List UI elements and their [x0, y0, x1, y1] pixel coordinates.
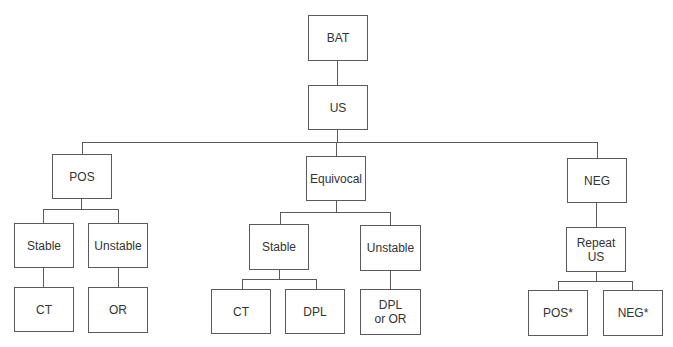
node-eq-dpl-or: DPL or OR — [360, 289, 421, 335]
node-pos-ct: CT — [14, 287, 74, 332]
connector-to-pos-stable — [43, 209, 44, 223]
node-neg: NEG — [567, 158, 627, 203]
node-label: CT — [36, 303, 52, 317]
connector-repeat-branch — [558, 281, 633, 282]
connector-eq-stable-down — [279, 270, 280, 279]
node-label: US — [330, 101, 347, 115]
node-label: DPL — [303, 305, 326, 319]
connector-to-pos — [82, 142, 83, 154]
node-pos-stable: Stable — [14, 223, 74, 268]
connector-to-eq-unstable — [390, 212, 391, 225]
node-eq-ct: CT — [211, 289, 271, 334]
node-label: POS* — [543, 306, 573, 320]
node-label: Stable — [262, 240, 296, 254]
node-label: POS — [69, 170, 94, 184]
connector-to-eq-dpl — [316, 279, 317, 289]
connector-to-repeat-neg — [632, 281, 633, 290]
connector-repeat-down — [596, 272, 597, 281]
node-eq-stable: Stable — [249, 224, 309, 270]
node-label: NEG* — [618, 306, 649, 320]
node-label: Stable — [27, 239, 61, 253]
node-repeat-us: Repeat US — [566, 227, 626, 272]
node-pos-unstable: Unstable — [88, 223, 148, 268]
connector-pos-stable-ct — [43, 268, 44, 287]
connector-pos-branch — [43, 209, 119, 210]
flowchart: BAT US POS Equivocal NEG Stable Unstable… — [0, 0, 673, 347]
node-label: Unstable — [367, 241, 414, 255]
node-label: Equivocal — [310, 172, 362, 186]
connector-to-pos-unstable — [118, 209, 119, 223]
connector-equivocal-branch — [280, 212, 391, 213]
connector-to-repeat-pos — [558, 281, 559, 290]
node-repeat-neg: NEG* — [603, 290, 663, 336]
node-pos: POS — [52, 154, 112, 199]
connector-neg-repeat — [596, 203, 597, 227]
connector-equivocal-down — [336, 201, 337, 212]
connector-to-neg — [597, 142, 598, 158]
node-label: OR — [109, 303, 127, 317]
node-repeat-pos: POS* — [528, 290, 588, 336]
connector-to-eq-stable — [280, 212, 281, 224]
connector-eq-stable-branch — [242, 279, 317, 280]
connector-eq-unstable-dpl-or — [390, 271, 391, 289]
connector-pos-unstable-or — [118, 268, 119, 287]
connector-to-equivocal — [336, 142, 337, 156]
node-label: CT — [233, 305, 249, 319]
node-bat: BAT — [308, 15, 368, 61]
connector-to-eq-ct — [242, 279, 243, 289]
node-label: DPL or OR — [374, 298, 406, 326]
node-label: NEG — [584, 174, 610, 188]
node-equivocal: Equivocal — [306, 156, 366, 201]
node-us: US — [308, 85, 368, 130]
node-label: Unstable — [94, 239, 141, 253]
node-eq-dpl: DPL — [285, 289, 345, 334]
node-label: BAT — [327, 31, 349, 45]
connector-pos-down — [81, 199, 82, 209]
node-eq-unstable: Unstable — [360, 225, 421, 271]
connector-bat-us — [337, 61, 338, 85]
node-pos-or: OR — [88, 287, 148, 333]
connector-us-branch — [82, 142, 598, 143]
node-label: Repeat US — [567, 236, 625, 264]
